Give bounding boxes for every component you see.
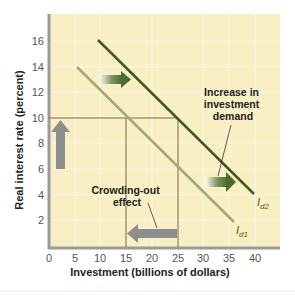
svg-text:6: 6 [38,163,44,175]
svg-text:30: 30 [197,252,209,264]
svg-text:12: 12 [32,86,44,98]
svg-text:5: 5 [72,252,78,264]
plot-area [49,14,280,248]
y-axis-title: Real interest rate (percent) [13,70,25,210]
svg-text:16: 16 [32,35,44,47]
svg-text:14: 14 [32,61,44,73]
crowding-out-chart: Increase in investment demand Crowding-o… [0,0,295,297]
svg-text:20: 20 [146,252,158,264]
x-axis-title: Investment (billions of dollars) [70,266,230,278]
svg-text:10: 10 [32,112,44,124]
svg-text:0: 0 [46,252,52,264]
svg-text:10: 10 [94,252,106,264]
svg-text:8: 8 [38,137,44,149]
svg-text:40: 40 [249,252,261,264]
y-tick-labels: 16 14 12 10 8 6 4 2 [32,35,44,226]
svg-text:35: 35 [223,252,235,264]
svg-text:2: 2 [38,214,44,226]
svg-text:25: 25 [172,252,184,264]
x-tick-labels: 0 5 10 15 20 25 30 35 40 [46,252,261,264]
svg-text:15: 15 [120,252,132,264]
svg-text:4: 4 [38,189,44,201]
